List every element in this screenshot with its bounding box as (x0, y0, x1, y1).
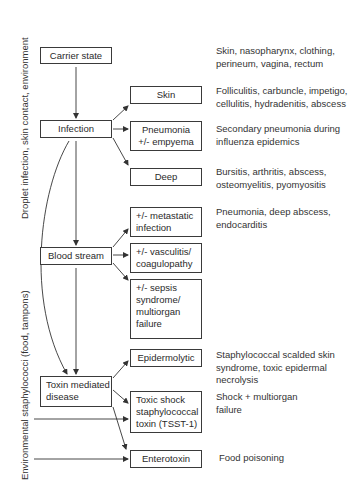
node-infection: Infection (40, 120, 112, 138)
desc-epidermolytic: Staphylococcal scalded skin syndrome, to… (216, 349, 335, 387)
desc-enterotoxin: Food poisoning (219, 452, 284, 465)
node-label-line: +/- sepsis (136, 282, 196, 294)
node-label: Enterotoxin (142, 453, 190, 465)
desc-line: Shock + multiorgan (216, 391, 298, 404)
node-label-line: +/- vasculitis/ (136, 246, 196, 258)
desc-line: osteomyelitis, pyomyositis (216, 179, 326, 192)
node-carrier-state: Carrier state (40, 47, 112, 64)
node-label-line: infection (136, 222, 196, 234)
desc-line: cellulitis, hydradenitis, abscess (216, 98, 347, 111)
node-vasculitis-coagulopathy: +/- vasculitis/ coagulopathy (130, 243, 202, 273)
node-label-line: multiorgan (136, 306, 196, 318)
node-label: Carrier state (50, 50, 102, 62)
node-label-line: +/- metastatic (136, 210, 196, 222)
node-label: Blood stream (48, 250, 104, 262)
desc-line: Staphylococcal scalded skin (216, 349, 335, 362)
desc-line: syndrome, toxic epidermal (216, 362, 335, 375)
desc-line: Food poisoning (219, 452, 284, 465)
desc-carrier: Skin, nasopharynx, clothing, perineum, v… (216, 45, 335, 70)
node-label-line: coagulopathy (136, 258, 196, 270)
node-metastatic-infection: +/- metastatic infection (130, 207, 202, 237)
desc-line: Folliculitis, carbuncle, impetigo, (216, 85, 347, 98)
node-label-line: staphylococcal (136, 406, 196, 418)
desc-line: failure (216, 404, 298, 417)
node-label-line: Pneumonia (142, 124, 190, 136)
node-toxin-mediated-disease: Toxin mediated disease (40, 376, 112, 407)
desc-line: influenza epidemics (216, 136, 340, 149)
desc-line: Bursitis, arthritis, abscess, (216, 166, 326, 179)
side-label-environmental: Environmental staphylococci (food, tampo… (19, 290, 30, 480)
node-label-line: toxin (TSST-1) (136, 418, 196, 430)
node-blood-stream: Blood stream (40, 247, 112, 265)
node-label-line: +/- empyema (138, 136, 194, 148)
node-sepsis-syndrome: +/- sepsis syndrome/ multiorgan failure (130, 279, 202, 339)
node-pneumonia: Pneumonia +/- empyema (130, 121, 202, 151)
node-enterotoxin: Enterotoxin (130, 450, 202, 468)
desc-line: Secondary pneumonia during (216, 123, 340, 136)
desc-line: endocarditis (216, 219, 331, 232)
desc-pneumonia: Secondary pneumonia during influenza epi… (216, 123, 340, 148)
node-label: Skin (157, 89, 175, 101)
desc-metastatic: Pneumonia, deep abscess, endocarditis (216, 206, 331, 231)
node-skin: Skin (130, 86, 202, 104)
desc-line: necrolysis (216, 374, 335, 387)
node-label-line: Toxic shock (136, 394, 196, 406)
node-deep: Deep (130, 168, 202, 186)
desc-toxic-shock: Shock + multiorgan failure (216, 391, 298, 416)
node-label-line: syndrome/ (136, 294, 196, 306)
desc-line: perineum, vagina, rectum (216, 58, 335, 71)
node-label-line: Toxin mediated (46, 379, 106, 391)
desc-line: Pneumonia, deep abscess, (216, 206, 331, 219)
node-label-line: failure (136, 318, 196, 330)
desc-line: Skin, nasopharynx, clothing, (216, 45, 335, 58)
node-toxic-shock: Toxic shock staphylococcal toxin (TSST-1… (130, 391, 202, 433)
desc-skin: Folliculitis, carbuncle, impetigo, cellu… (216, 85, 347, 110)
node-label: Epidermolytic (137, 352, 194, 364)
node-label: Infection (58, 123, 94, 135)
node-epidermolytic: Epidermolytic (130, 349, 202, 367)
desc-deep: Bursitis, arthritis, abscess, osteomyeli… (216, 166, 326, 191)
side-label-droplet: Droplet infection, skin contact, environ… (19, 37, 30, 219)
node-label: Deep (155, 171, 178, 183)
node-label-line: disease (46, 391, 106, 403)
